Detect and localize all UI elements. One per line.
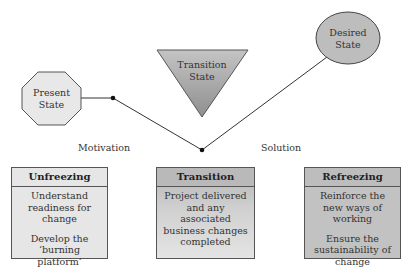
transition-box: Transition Project delivered and any ass… — [156, 167, 255, 259]
refreezing-title: Refreezing — [305, 168, 400, 187]
desired-state-line2: State — [318, 39, 378, 51]
present-state-line1: Present — [22, 87, 81, 99]
solution-label: Solution — [256, 142, 306, 154]
desired-state-label: Desired State — [318, 27, 378, 51]
unfreezing-point-2: Develop the ‘burning platform’ — [16, 233, 103, 268]
motivation-label: Motivation — [73, 142, 135, 154]
unfreezing-title: Unfreezing — [12, 168, 107, 187]
present-state-line2: State — [22, 99, 81, 111]
transition-point-1: Project delivered and any associated bus… — [161, 190, 250, 248]
transition-state-label: Transition State — [170, 59, 234, 83]
refreezing-point-1: Reinforce the new ways of working — [309, 190, 396, 225]
transition-title: Transition — [157, 168, 254, 187]
transition-body: Project delivered and any associated bus… — [157, 187, 254, 248]
transition-state-line1: Transition — [170, 59, 234, 71]
junction-dot-transition — [200, 148, 205, 153]
refreezing-body: Reinforce the new ways of working Ensure… — [305, 187, 400, 267]
unfreezing-body: Understand readiness for change Develop … — [12, 187, 107, 267]
refreezing-box: Refreezing Reinforce the new ways of wor… — [304, 167, 401, 259]
junction-dot-present — [111, 96, 116, 101]
desired-state-line1: Desired — [318, 27, 378, 39]
present-state-label: Present State — [22, 87, 81, 111]
refreezing-point-2: Ensure the sustainability of change — [309, 233, 396, 268]
unfreezing-point-1: Understand readiness for change — [16, 190, 103, 225]
unfreezing-box: Unfreezing Understand readiness for chan… — [11, 167, 108, 259]
transition-state-line2: State — [170, 71, 234, 83]
